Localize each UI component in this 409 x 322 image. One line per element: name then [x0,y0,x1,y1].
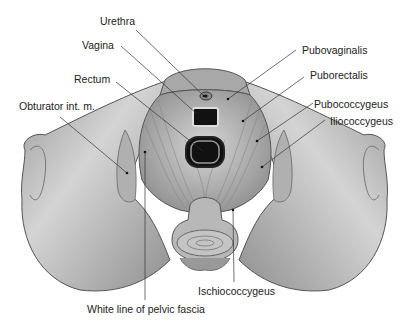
label-rectum: Rectum [74,73,110,85]
label-vagina: Vagina [82,39,114,51]
label-pubococcygeus: Pubococcygeus [314,98,388,110]
label-ischiococcygeus: Ischiococcygeus [198,285,275,297]
label-puborectalis: Puborectalis [310,69,368,81]
pelvic-floor-diagram: Urethra Vagina Rectum Obturator int. m. … [0,0,409,322]
label-obturator-internus: Obturator int. m. [19,100,95,112]
vagina-structure [193,108,218,126]
label-pubovaginalis: Pubovaginalis [302,44,367,56]
label-iliococcygeus: Iliococcygeus [330,115,393,127]
label-white-line-pelvic-fascia: White line of pelvic fascia [87,303,205,315]
label-urethra: Urethra [100,15,135,27]
